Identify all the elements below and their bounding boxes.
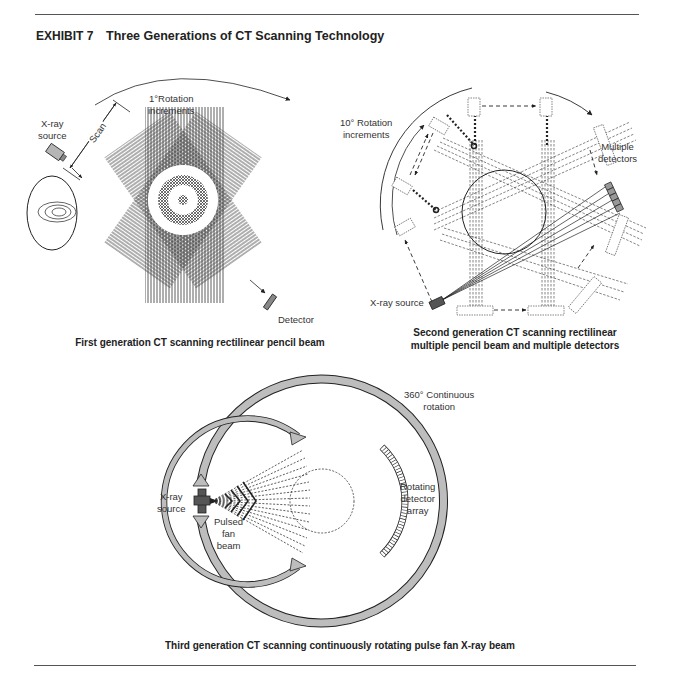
continuous-rotation-label: 360° Continuousrotation <box>404 389 474 413</box>
third-generation-caption: Third generation CT scanning continuousl… <box>150 639 530 652</box>
third-generation-diagram <box>0 0 675 690</box>
rotating-detector-array-label: Rotatingdetectorarray <box>400 481 435 517</box>
xray-source-label-3: X-raysource <box>157 491 186 515</box>
xray-source-icon-3 <box>194 489 218 513</box>
bottom-rule <box>34 665 636 666</box>
pulsed-fan-beam-label: Pulsedfanbeam <box>214 516 243 552</box>
